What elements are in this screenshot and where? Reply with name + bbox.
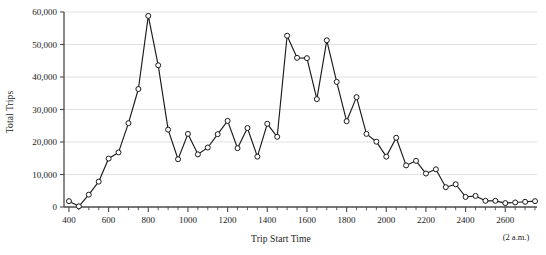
data-point — [314, 97, 319, 102]
data-point — [66, 199, 71, 204]
x-tick-label: 1200 — [219, 215, 238, 225]
y-tick-label: 50,000 — [32, 40, 57, 50]
x-tick-label: 2200 — [417, 215, 436, 225]
x-tick-label: 2000 — [377, 215, 396, 225]
data-point — [176, 157, 181, 162]
data-point — [205, 145, 210, 150]
data-point — [414, 158, 419, 163]
y-tick-label: 0 — [53, 202, 58, 212]
data-point — [86, 192, 91, 197]
data-point — [503, 201, 508, 206]
data-point — [453, 182, 458, 187]
y-axis-title: Total Trips — [5, 91, 15, 134]
data-point — [384, 154, 389, 159]
data-point — [513, 200, 518, 205]
data-point — [255, 154, 260, 159]
line-chart: 4006008001000120014001600180020002200240… — [0, 0, 546, 255]
data-point — [245, 126, 250, 131]
data-point — [185, 131, 190, 136]
data-point — [493, 198, 498, 203]
data-point — [225, 118, 230, 123]
x-tick-label: 1600 — [298, 215, 317, 225]
data-point — [533, 199, 538, 204]
x-tick-label: 1400 — [258, 215, 277, 225]
x-tick-label: 400 — [62, 215, 76, 225]
data-point — [96, 179, 101, 184]
y-tick-label: 40,000 — [32, 72, 57, 82]
data-point — [265, 121, 270, 126]
x-tick-label: 2400 — [457, 215, 476, 225]
x-tick-label: 800 — [142, 215, 156, 225]
data-point — [126, 121, 131, 126]
data-point — [304, 56, 309, 61]
data-point — [116, 150, 121, 155]
data-point — [76, 204, 81, 209]
x-tick-label: 1800 — [338, 215, 357, 225]
data-point — [295, 55, 300, 60]
y-tick-label: 10,000 — [32, 170, 57, 180]
data-point — [364, 131, 369, 136]
x-tick-label: 600 — [102, 215, 116, 225]
data-point — [354, 95, 359, 100]
data-point — [275, 134, 280, 139]
data-point — [463, 194, 468, 199]
data-point — [324, 38, 329, 43]
x-tick-labels: 4006008001000120014001600180020002200240… — [62, 215, 515, 225]
chart-container: 4006008001000120014001600180020002200240… — [0, 0, 546, 255]
two-am-annotation: (2 a.m.) — [503, 232, 530, 242]
data-point — [146, 13, 151, 18]
data-point — [483, 198, 488, 203]
data-point — [106, 156, 111, 161]
data-point — [394, 135, 399, 140]
data-point — [423, 171, 428, 176]
y-tick-labels: 010,00020,00030,00040,00050,00060,000 — [32, 7, 57, 212]
data-point — [215, 132, 220, 137]
x-tick-group — [69, 207, 535, 212]
y-tick-label: 20,000 — [32, 137, 57, 147]
data-point — [195, 152, 200, 157]
data-point — [285, 33, 290, 38]
gridlines-group — [64, 12, 537, 175]
data-point — [156, 63, 161, 68]
y-tick-label: 30,000 — [32, 105, 57, 115]
y-tick-label: 60,000 — [32, 7, 57, 17]
x-axis-title: Trip Start Time — [251, 234, 311, 244]
data-point — [523, 199, 528, 204]
x-tick-label: 1000 — [179, 215, 198, 225]
data-point — [334, 79, 339, 84]
data-point — [166, 127, 171, 132]
data-point — [136, 87, 141, 92]
data-series-markers — [66, 13, 537, 208]
data-point — [374, 139, 379, 144]
data-point — [443, 185, 448, 190]
data-point — [235, 146, 240, 151]
data-point — [473, 193, 478, 198]
x-tick-label: 2600 — [496, 215, 515, 225]
data-point — [404, 163, 409, 168]
data-point — [433, 167, 438, 172]
data-point — [344, 119, 349, 124]
